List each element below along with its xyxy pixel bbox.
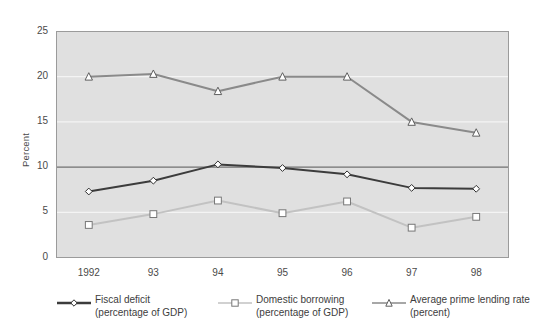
chart-legend: Fiscal deficit(percentage of GDP)Domesti…	[0, 288, 539, 335]
data-point	[279, 210, 286, 217]
legend-label: Domestic borrowing	[256, 294, 348, 307]
data-point	[85, 222, 92, 229]
data-point	[473, 213, 480, 220]
legend-sublabel: (percent)	[410, 307, 530, 320]
legend-item-1: Fiscal deficit(percentage of GDP)	[57, 294, 187, 319]
legend-item-3: Average prime lending rate(percent)	[372, 294, 530, 319]
legend-marker-triangle-icon	[372, 298, 406, 308]
data-point	[408, 224, 415, 231]
legend-item-2: Domestic borrowing(percentage of GDP)	[218, 294, 348, 319]
data-point	[344, 198, 351, 205]
data-point	[150, 211, 157, 218]
legend-marker-diamond-icon	[57, 298, 91, 308]
legend-label: Fiscal deficit	[95, 294, 187, 307]
data-point	[215, 197, 222, 204]
legend-label: Average prime lending rate	[410, 294, 530, 307]
chart-container: Percent 0510152025 1992939495969798 Fisc…	[0, 0, 539, 335]
legend-sublabel: (percentage of GDP)	[95, 307, 187, 320]
legend-sublabel: (percentage of GDP)	[256, 307, 348, 320]
legend-marker-square-icon	[218, 298, 252, 308]
plot-area	[0, 0, 539, 335]
